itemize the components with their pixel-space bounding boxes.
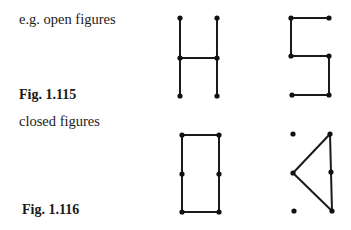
vertex-dot (327, 131, 332, 136)
vertex-dot (177, 55, 182, 60)
vertex-dot (288, 15, 293, 20)
vertex-dot (214, 15, 219, 20)
vertex-dot (326, 92, 331, 97)
vertex-dot (177, 93, 182, 98)
vertex-dot (290, 131, 295, 136)
vertex-dot (288, 53, 293, 58)
line-segment (293, 134, 330, 173)
vertex-dot (289, 92, 294, 97)
vertex-dot (214, 93, 219, 98)
vertex-dot (290, 170, 295, 175)
vertex-dot (179, 132, 184, 137)
vertex-dot (179, 171, 184, 176)
triangle-figure (290, 131, 334, 213)
vertex-dot (326, 15, 331, 20)
vertex-dot (216, 209, 221, 214)
line-segment (293, 173, 332, 211)
closed-figures (179, 131, 334, 214)
vertex-dot (214, 55, 219, 60)
rectangle-figure (179, 132, 221, 214)
vertex-dot (216, 132, 221, 137)
vertex-dot (326, 53, 331, 58)
vertex-dot (216, 171, 221, 176)
s-shape-figure (288, 15, 331, 97)
open-figures (177, 15, 331, 98)
vertex-dot (328, 169, 333, 174)
figures-canvas (0, 0, 351, 230)
vertex-dot (291, 208, 296, 213)
vertex-dot (179, 209, 184, 214)
h-shape-figure (177, 15, 219, 98)
vertex-dot (177, 15, 182, 20)
vertex-dot (329, 208, 334, 213)
